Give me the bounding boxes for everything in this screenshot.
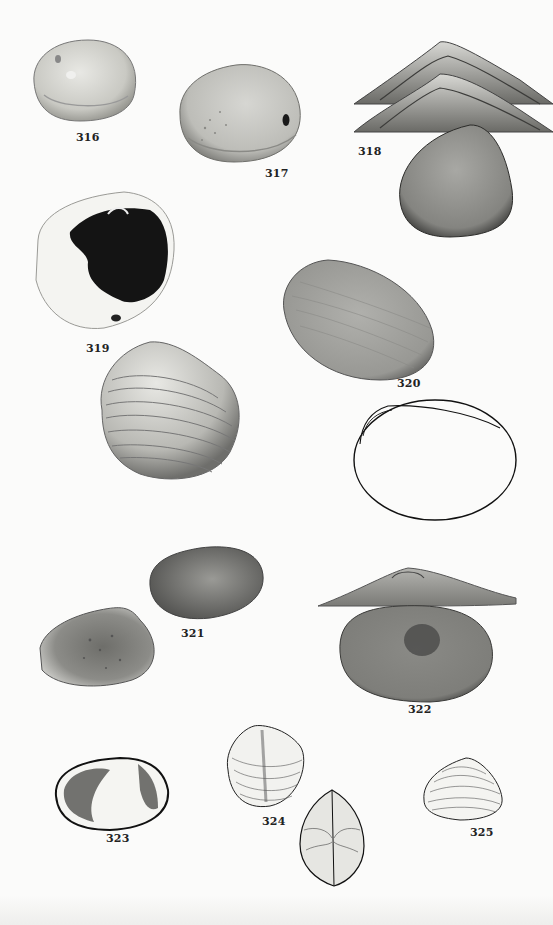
figure-label-316: 316 <box>76 131 100 144</box>
figure-319-shell <box>36 192 174 329</box>
figure-321-shell-lower <box>40 608 154 686</box>
figure-label-321: 321 <box>181 627 205 640</box>
figure-319-ribbed-shell <box>101 342 239 479</box>
figure-label-323: 323 <box>106 832 130 845</box>
figure-325-engraving <box>424 758 502 820</box>
figure-317-shell <box>180 65 300 162</box>
figure-label-322: 322 <box>408 703 432 716</box>
figure-label-325: 325 <box>470 826 494 839</box>
shell-plate: 316 317 318 319 320 321 322 323 324 325 <box>0 0 553 925</box>
figure-label-320: 320 <box>397 377 421 390</box>
figure-316-shell <box>34 40 136 121</box>
figure-318-shell <box>400 125 513 237</box>
figure-320-shell <box>283 260 433 380</box>
figure-324-dorsal-engraving <box>300 790 364 886</box>
figure-label-317: 317 <box>265 167 289 180</box>
figure-label-324: 324 <box>262 815 286 828</box>
figure-322-shell <box>340 606 493 702</box>
figure-label-319: 319 <box>86 342 110 355</box>
figure-322-hinge <box>318 568 516 606</box>
figure-320-outline <box>354 400 516 520</box>
figure-323-engraving <box>56 758 168 830</box>
figure-321-shell-upper <box>150 547 263 619</box>
figure-318-hinge <box>354 42 553 132</box>
page-edge-shadow <box>0 895 553 925</box>
figure-label-318: 318 <box>358 145 382 158</box>
figure-324-engraving <box>227 726 303 807</box>
